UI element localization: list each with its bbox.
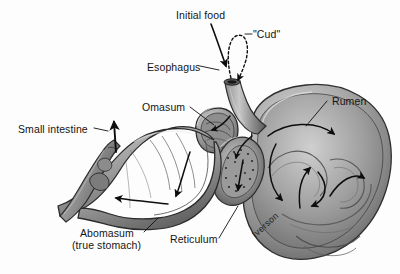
- label-omasum: Omasum: [142, 101, 185, 113]
- label-rumen: Rumen: [332, 95, 366, 107]
- initial-food-arrow: [211, 24, 226, 66]
- label-abomasum-subtitle: (true stomach): [72, 239, 141, 251]
- leader-small-intestine: [94, 128, 108, 131]
- cud-loop-arrow: [228, 35, 247, 80]
- label-cud: "Cud": [253, 28, 280, 40]
- label-abomasum: Abomasum: [80, 227, 134, 239]
- label-reticulum: Reticulum: [170, 233, 218, 245]
- label-initial-food: Initial food: [176, 9, 225, 21]
- label-esophagus: Esophagus: [147, 61, 200, 73]
- leader-esophagus: [200, 66, 219, 70]
- leader-reticulum: [219, 206, 238, 238]
- rumen-organ: [243, 84, 391, 259]
- label-small-intestine: Small intestine: [18, 123, 88, 135]
- abomasum-organ: [58, 127, 221, 230]
- ruminant-stomach-figure: Initial food "Cud" Esophagus Omasum Rume…: [0, 0, 400, 274]
